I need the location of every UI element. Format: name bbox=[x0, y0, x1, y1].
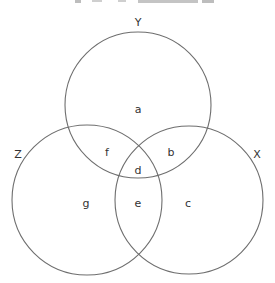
region-label-b: b bbox=[168, 146, 175, 159]
set-labels: YZX bbox=[14, 16, 261, 161]
set-circles bbox=[12, 32, 263, 275]
set-label-x: X bbox=[253, 148, 261, 161]
region-label-a: a bbox=[135, 103, 142, 116]
region-labels: afbdgec bbox=[83, 103, 192, 210]
set-label-y: Y bbox=[134, 16, 142, 29]
region-label-e: e bbox=[135, 197, 142, 210]
region-label-c: c bbox=[185, 197, 191, 210]
region-label-f: f bbox=[105, 146, 110, 159]
region-label-g: g bbox=[83, 197, 90, 210]
set-label-z: Z bbox=[14, 148, 22, 161]
region-label-d: d bbox=[135, 164, 142, 177]
venn-diagram: YZX afbdgec bbox=[0, 0, 275, 283]
cut-off-title bbox=[75, 0, 214, 3]
